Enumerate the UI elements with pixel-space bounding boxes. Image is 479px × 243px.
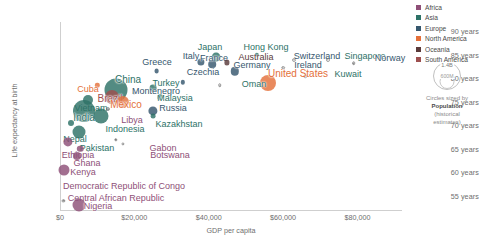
data-point-label: Germany: [233, 61, 270, 70]
data-point-label: Oman: [242, 80, 267, 89]
legend-item[interactable]: North America: [416, 35, 478, 42]
data-point[interactable]: [225, 60, 230, 65]
plot-area: JapanItalyFranceSwitzerlandSingaporeHong…: [0, 0, 479, 243]
size-legend-caption: Circles sized by Population (historical …: [416, 94, 478, 126]
legend-item-label: Oceania: [425, 46, 450, 53]
scatter-chart: 55 years60 years65 years70 years75 years…: [0, 0, 479, 243]
data-point[interactable]: [93, 109, 108, 124]
data-point-label: Indonesia: [105, 125, 144, 134]
data-point-label: Kenya: [70, 168, 96, 177]
legend-swatch-icon: [416, 5, 421, 10]
data-point[interactable]: [122, 143, 125, 146]
data-point[interactable]: [68, 120, 74, 126]
data-point-label: Kazakhstan: [155, 120, 202, 129]
data-point[interactable]: [154, 69, 159, 74]
size-legend-large-label: 1.4B: [440, 62, 454, 68]
data-point[interactable]: [218, 84, 222, 88]
legend-swatch-icon: [416, 47, 421, 52]
size-legend-caption-line2: Population: [416, 102, 478, 110]
continent-legend: AfricaAsiaEuropeNorth AmericaOceaniaSout…: [416, 4, 478, 66]
data-point-label: China: [115, 75, 141, 85]
legend-item-label: Asia: [425, 14, 438, 21]
data-point-label: Cuba: [77, 85, 99, 94]
data-point[interactable]: [59, 165, 70, 176]
data-point-label: Hong Kong: [243, 43, 288, 52]
data-point[interactable]: [62, 199, 65, 202]
data-point-label: Mexico: [110, 100, 142, 110]
legend-item[interactable]: Asia: [416, 14, 478, 21]
size-legend-small-label: 600M: [440, 73, 455, 79]
legend-swatch-icon: [416, 36, 421, 41]
data-point[interactable]: [72, 126, 85, 139]
legend-item[interactable]: Europe: [416, 25, 478, 32]
data-point[interactable]: [114, 138, 117, 141]
size-legend-caption-line4: estimates): [416, 118, 478, 126]
legend-swatch-icon: [416, 15, 421, 20]
data-point[interactable]: [180, 80, 184, 84]
data-point-label: Nigeria: [84, 202, 113, 211]
data-point-label: Russia: [159, 104, 187, 113]
data-point-label: Norway: [375, 54, 406, 63]
size-legend-caption-line1: Circles sized by: [416, 94, 478, 102]
legend-item[interactable]: Africa: [416, 4, 478, 11]
data-point[interactable]: [106, 107, 110, 111]
size-legend-caption-line3: (historical: [416, 110, 478, 118]
data-point[interactable]: [326, 58, 330, 62]
data-point-label: United States: [268, 69, 328, 79]
data-point-label: Greece: [142, 58, 172, 67]
data-point-label: Kuwait: [334, 70, 361, 79]
data-point-label: Japan: [198, 43, 223, 52]
data-point-label: Malaysia: [157, 94, 193, 103]
data-point[interactable]: [352, 62, 356, 66]
legend-item[interactable]: Oceania: [416, 46, 478, 53]
size-legend-large-circle: 1.4B 600M: [433, 62, 461, 90]
data-point-label: Czechia: [187, 68, 220, 77]
legend-item-label: Europe: [425, 25, 446, 32]
data-point[interactable]: [73, 152, 81, 160]
legend-item-label: North America: [425, 35, 467, 42]
data-point-label: Botswana: [150, 151, 190, 160]
legend-item-label: Africa: [425, 4, 442, 11]
data-point-label: Democratic Republic of Congo: [63, 182, 185, 191]
legend-swatch-icon: [416, 26, 421, 31]
data-point[interactable]: [64, 137, 73, 146]
data-point-label: India: [73, 113, 95, 123]
data-point-label: Italy: [183, 52, 200, 61]
size-legend: 1.4B 600M Circles sized by Population (h…: [416, 62, 478, 126]
